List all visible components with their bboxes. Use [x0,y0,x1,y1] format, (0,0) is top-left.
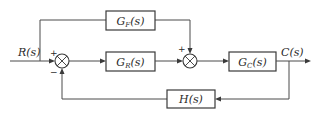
arrow-head-icon [177,59,183,64]
arrow-head-icon [188,48,193,54]
arrow-head-icon [60,68,65,74]
block-gc: GC(s) [229,52,276,71]
output-signal: C(s) [276,46,311,64]
block-gf: GF(s) [106,11,155,30]
plus-sign: + [178,44,186,54]
input-label: R(s) [17,46,41,59]
input-signal: R(s) [10,46,55,64]
svg-text:GR(s): GR(s) [116,56,144,70]
svg-text:GF(s): GF(s) [117,15,145,29]
arrow-head-icon [215,97,221,102]
arrow-head-icon [223,59,229,64]
arrow-head-icon [305,59,311,64]
arrow-head-icon [49,59,55,64]
block-gr: GR(s) [106,52,155,71]
output-label: C(s) [281,46,304,59]
arrow-head-icon [100,59,106,64]
summing-junction-1: + − [50,48,69,77]
summing-junction-2: + [178,44,197,68]
plus-sign: + [50,48,58,58]
svg-text:H(s): H(s) [178,93,203,106]
svg-text:GC(s): GC(s) [238,56,266,70]
block-h: H(s) [167,90,215,108]
minus-sign: − [50,67,58,77]
block-diagram: R(s) + − GF(s) GR(s) + [0,0,317,120]
